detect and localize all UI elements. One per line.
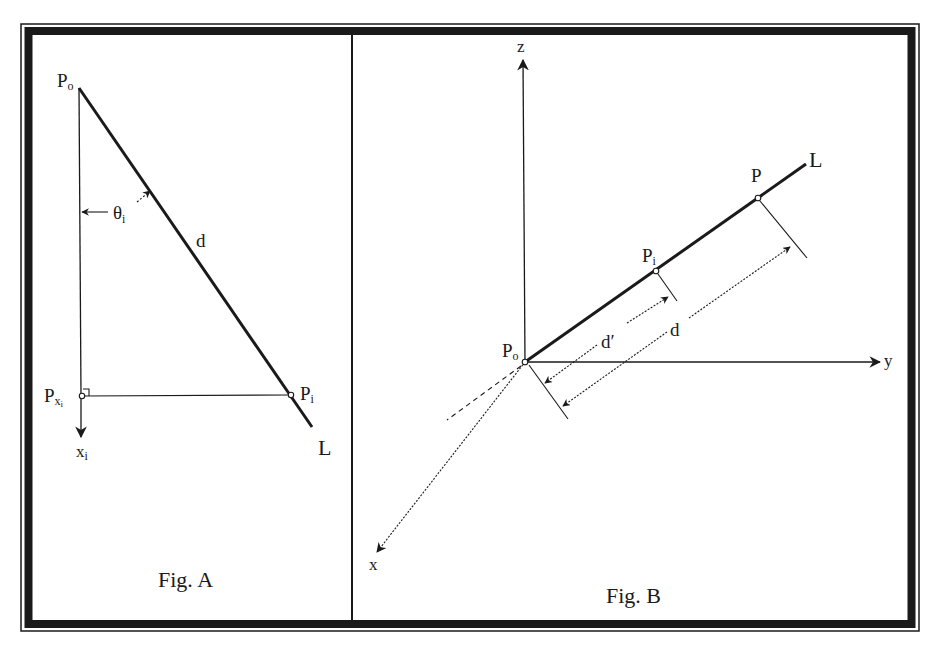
dim-d-prime-upper bbox=[627, 297, 668, 323]
label-pi: Pi bbox=[300, 383, 315, 406]
label-p0: Po bbox=[502, 340, 519, 363]
dim-d-upper bbox=[689, 247, 790, 318]
dim-d-prime-lower bbox=[545, 345, 597, 383]
label-p: P bbox=[751, 165, 762, 186]
label-x-axis: x bbox=[369, 555, 378, 574]
point-pi bbox=[653, 268, 659, 274]
line-l bbox=[525, 164, 806, 362]
figure-frame bbox=[21, 24, 919, 631]
point-p bbox=[755, 195, 761, 201]
label-z-axis: z bbox=[517, 37, 525, 56]
label-line-l: L bbox=[318, 435, 331, 460]
caption-fig-a: Fig. A bbox=[158, 567, 213, 592]
label-pxi: Pxi bbox=[44, 385, 64, 409]
tick-p bbox=[760, 201, 807, 258]
label-p0: Po bbox=[57, 70, 74, 93]
label-d: d bbox=[196, 230, 206, 251]
label-d-prime: d′ bbox=[601, 331, 615, 352]
diagram-canvas: Po θi d Pi Pxi xi L Fig. A z y x bbox=[0, 0, 934, 645]
figure-b: z y x Po Pi P L d′ d Fig. B bbox=[369, 37, 893, 608]
tick-pi bbox=[658, 274, 677, 301]
label-d: d bbox=[670, 319, 680, 340]
perpendicular-line bbox=[83, 395, 289, 396]
point-p0 bbox=[522, 359, 528, 365]
line-l bbox=[79, 88, 312, 427]
label-line-l: L bbox=[809, 147, 822, 172]
tick-p0 bbox=[529, 365, 568, 419]
figure-a: Po θi d Pi Pxi xi L Fig. A bbox=[44, 70, 331, 592]
label-y-axis: y bbox=[884, 351, 893, 370]
point-pxi bbox=[79, 393, 84, 398]
point-pi bbox=[288, 392, 293, 397]
caption-fig-b: Fig. B bbox=[606, 583, 661, 608]
theta-arrow-right bbox=[137, 191, 150, 202]
vertical-axis-line bbox=[79, 88, 81, 396]
x-axis bbox=[377, 362, 525, 552]
label-theta: θi bbox=[113, 202, 126, 226]
label-xi: xi bbox=[76, 442, 89, 463]
label-pi: Pi bbox=[642, 245, 657, 268]
line-l-extension bbox=[447, 366, 521, 420]
dim-d-lower bbox=[563, 332, 667, 406]
z-axis bbox=[523, 60, 525, 362]
